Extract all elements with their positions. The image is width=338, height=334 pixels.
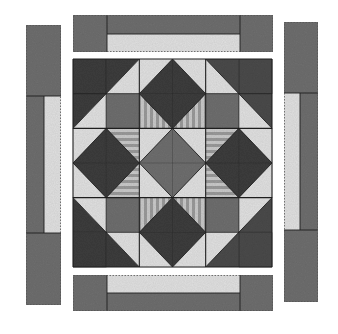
quilt-illustration [0, 0, 338, 334]
nw-medium-square [106, 94, 139, 129]
quilt-diagram: Quilt block with border strips [0, 0, 338, 334]
border-top [73, 15, 273, 52]
se-medium-square [206, 198, 239, 233]
border-right [284, 22, 318, 302]
border-left-light-strip [44, 96, 61, 233]
sw-medium-square [106, 198, 139, 233]
ne-dark-square [239, 59, 272, 94]
border-left [26, 25, 61, 305]
nw-dark-square [73, 59, 106, 94]
sw-dark-square [73, 232, 106, 267]
se-dark-square [239, 232, 272, 267]
ne-medium-square [206, 94, 239, 129]
border-right-light-strip [284, 93, 300, 230]
border-bottom-light-strip [107, 275, 240, 293]
border-top-light-strip [107, 34, 240, 52]
